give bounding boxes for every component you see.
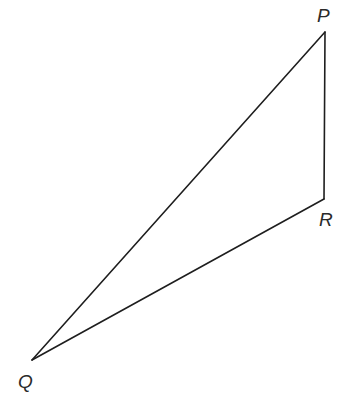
vertex-label-p: P	[317, 5, 330, 26]
edge-rq	[32, 199, 324, 360]
edge-qp	[32, 32, 325, 360]
vertex-label-q: Q	[18, 371, 33, 392]
triangle-diagram: P R Q	[0, 0, 352, 394]
vertex-label-r: R	[319, 209, 333, 230]
edge-pr	[324, 32, 325, 199]
